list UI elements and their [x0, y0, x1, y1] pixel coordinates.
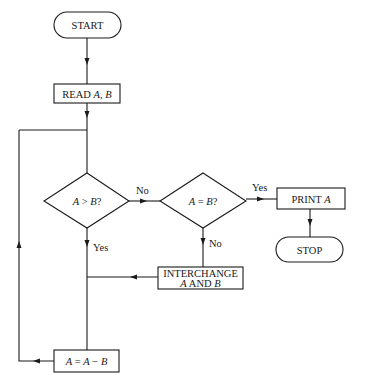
arrow-down-icon: [201, 238, 206, 245]
arrow-down-icon: [308, 219, 313, 226]
arrow-down-icon: [85, 240, 90, 247]
interchange-node: INTERCHANGE A AND B: [158, 267, 243, 289]
edge-loop-back: [19, 130, 54, 361]
arrow-right-icon: [140, 199, 147, 204]
label-gt-yes: Yes: [93, 242, 108, 253]
svg-text:A > B?: A > B?: [72, 196, 102, 207]
start-label: START: [72, 20, 104, 31]
print-node: PRINT A: [277, 188, 345, 209]
stop-node: STOP: [276, 237, 343, 262]
read-vars: A, B: [93, 89, 113, 100]
arrow-left-icon: [130, 275, 137, 280]
decision-a-eq-b: A = B?: [160, 173, 246, 228]
svg-text:A = A − B: A = A − B: [65, 356, 108, 367]
decision-a-gt-b: A > B?: [44, 173, 129, 228]
subtract-node: A = A − B: [54, 350, 119, 372]
start-node: START: [54, 12, 121, 38]
read-node: READ A, B: [54, 84, 120, 103]
arrow-down-icon: [85, 58, 90, 65]
arrow-left-icon: [33, 359, 40, 364]
svg-text:READ A, B: READ A, B: [62, 89, 112, 100]
label-eq-yes: Yes: [252, 182, 267, 193]
svg-text:PRINT A: PRINT A: [291, 194, 331, 205]
read-label: READ: [62, 89, 93, 100]
arrow-up-icon: [17, 241, 22, 248]
label-eq-no: No: [209, 238, 222, 249]
stop-label: STOP: [297, 245, 323, 256]
svg-text:A AND B: A AND B: [179, 278, 221, 289]
svg-text:A = B?: A = B?: [188, 196, 218, 207]
label-gt-no: No: [136, 185, 149, 196]
svg-text:INTERCHANGE: INTERCHANGE: [163, 268, 238, 279]
arrow-right-icon: [257, 197, 264, 202]
arrow-down-icon: [85, 111, 90, 118]
flowchart-canvas: START READ A, B A > B? No A = B? Yes: [0, 0, 365, 388]
